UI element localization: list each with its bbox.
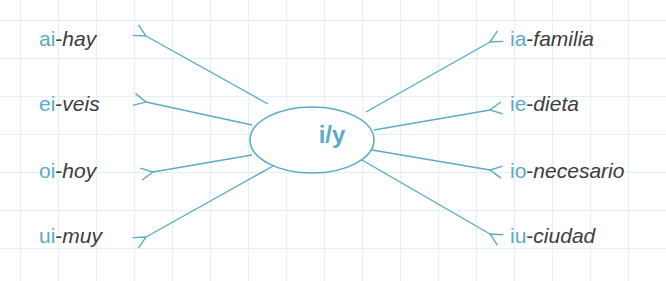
right-item-3: io-necesario bbox=[510, 159, 624, 183]
vowel-prefix: io bbox=[510, 159, 526, 182]
example-word: muy bbox=[62, 224, 102, 247]
arrow-to-oi bbox=[153, 155, 252, 172]
arrow-to-iu bbox=[362, 160, 490, 234]
arrow-to-ei bbox=[146, 102, 252, 125]
vowel-prefix: ei bbox=[39, 92, 55, 115]
vowel-prefix: ai bbox=[39, 27, 55, 50]
example-word: hoy bbox=[62, 159, 96, 182]
arrow-to-ai bbox=[146, 36, 268, 104]
vowel-prefix: ui bbox=[39, 224, 55, 247]
left-item-2: ei-veis bbox=[39, 92, 100, 116]
arrow-to-ui bbox=[146, 166, 273, 237]
center-label: i/y bbox=[282, 121, 382, 149]
left-item-1: ai-hay bbox=[39, 27, 96, 51]
vowel-prefix: oi bbox=[39, 159, 55, 182]
arrow-to-ia bbox=[366, 42, 490, 112]
example-word: necesario bbox=[533, 159, 624, 182]
example-word: familia bbox=[533, 27, 594, 50]
right-item-2: ie-dieta bbox=[510, 92, 579, 116]
vowel-prefix: ia bbox=[510, 27, 526, 50]
example-word: ciudad bbox=[533, 224, 595, 247]
arrow-to-io bbox=[372, 150, 490, 170]
vowel-prefix: ie bbox=[510, 92, 526, 115]
arrow-to-ie bbox=[374, 110, 490, 130]
left-item-4: ui-muy bbox=[39, 224, 102, 248]
example-word: dieta bbox=[533, 92, 579, 115]
left-item-3: oi-hoy bbox=[39, 159, 96, 183]
example-word: hay bbox=[62, 27, 96, 50]
example-word: veis bbox=[62, 92, 99, 115]
vowel-prefix: iu bbox=[510, 224, 526, 247]
right-item-1: ia-familia bbox=[510, 27, 594, 51]
right-item-4: iu-ciudad bbox=[510, 224, 595, 248]
